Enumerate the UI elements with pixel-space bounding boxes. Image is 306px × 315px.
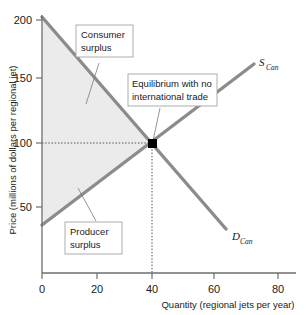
producer-surplus-annotation: Producer surplus <box>65 222 122 254</box>
y-tick-label-50: 50 <box>20 201 32 213</box>
equilibrium-annotation-line2: international trade <box>132 91 208 102</box>
supply-curve-label-letter: S <box>259 56 265 68</box>
equilibrium-annotation-line1: Equilibrium with no <box>132 78 212 89</box>
x-tick-label-20: 20 <box>91 283 103 295</box>
supply-demand-chart-figure: 200 150 100 50 0 20 40 60 80 Price (mill… <box>0 0 306 315</box>
producer-surplus-annotation-line2: surplus <box>70 239 101 250</box>
x-tick-label-80: 80 <box>272 283 284 295</box>
x-tick-label-0: 0 <box>39 283 45 295</box>
chart-canvas: 200 150 100 50 0 20 40 60 80 Price (mill… <box>0 0 306 315</box>
y-axis-title: Price (millions of dollars per regional … <box>7 66 18 235</box>
equilibrium-point-marker <box>148 139 157 148</box>
x-tick-label-40: 40 <box>146 283 158 295</box>
consumer-surplus-annotation-line2: surplus <box>81 42 112 53</box>
consumer-surplus-annotation: Consumer surplus <box>76 25 133 57</box>
supply-curve-label-subscript: Can <box>266 63 279 72</box>
equilibrium-annotation: Equilibrium with no international trade <box>128 74 217 106</box>
demand-curve-label-subscript: Can <box>240 237 253 246</box>
producer-surplus-annotation-line1: Producer <box>70 226 109 237</box>
y-tick-label-200: 200 <box>14 14 32 26</box>
consumer-surplus-annotation-line1: Consumer <box>81 29 125 40</box>
demand-curve-label-letter: D <box>231 230 240 242</box>
x-axis-title: Quantity (regional jets per year) <box>161 299 294 310</box>
x-tick-label-60: 60 <box>208 283 220 295</box>
